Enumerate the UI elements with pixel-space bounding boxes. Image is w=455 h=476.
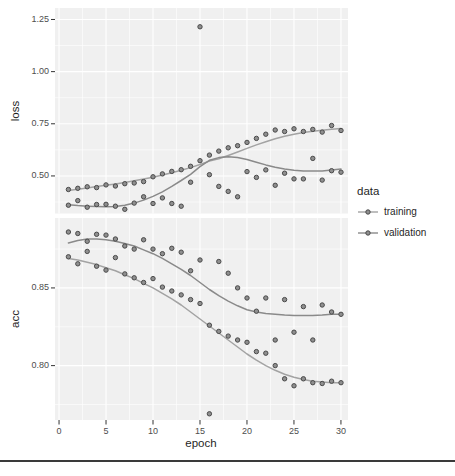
point-training-loss — [311, 127, 315, 131]
point-validation-acc — [94, 232, 98, 236]
point-training-loss — [254, 136, 258, 140]
point-validation-loss — [85, 205, 89, 209]
point-training-loss — [104, 183, 108, 187]
x-tick-label: 25 — [282, 427, 306, 436]
point-validation-acc — [188, 269, 192, 273]
y-tick-label-loss: 1.25 — [19, 15, 49, 24]
point-training-loss — [188, 164, 192, 168]
point-validation-acc — [217, 259, 221, 263]
point-training-acc — [76, 262, 80, 266]
point-validation-acc — [160, 252, 164, 256]
point-validation-loss — [160, 196, 164, 200]
point-validation-acc — [170, 246, 174, 250]
point-training-acc — [273, 363, 277, 367]
point-validation-acc — [264, 296, 268, 300]
point-validation-loss — [292, 177, 296, 181]
y-tick-label-loss: 1.00 — [19, 67, 49, 76]
point-training-acc — [292, 384, 296, 388]
x-tick-label: 30 — [329, 427, 353, 436]
point-training-loss — [141, 179, 145, 183]
point-training-loss — [282, 129, 286, 133]
legend-item-training: training — [357, 202, 426, 223]
panel-acc-bg — [55, 218, 348, 420]
point-validation-loss — [179, 204, 183, 208]
point-training-loss — [339, 128, 343, 132]
point-validation-loss — [264, 168, 268, 172]
point-validation-acc — [273, 338, 277, 342]
y-tick-label-loss: 0.50 — [19, 171, 49, 180]
point-validation-acc — [235, 286, 239, 290]
point-training-acc — [235, 338, 239, 342]
point-validation-loss — [141, 195, 145, 199]
point-training-acc — [198, 301, 202, 305]
point-training-acc — [217, 329, 221, 333]
point-validation-acc — [226, 271, 230, 275]
point-training-loss — [235, 144, 239, 148]
x-tick-label: 0 — [47, 427, 71, 436]
point-training-acc — [94, 264, 98, 268]
x-tick-label: 5 — [94, 427, 118, 436]
point-validation-acc — [132, 247, 136, 251]
point-validation-loss — [217, 184, 221, 188]
point-validation-loss — [282, 171, 286, 175]
point-validation-loss — [113, 204, 117, 208]
y-axis-title-acc: acc — [10, 310, 22, 328]
point-training-acc — [188, 297, 192, 301]
point-training-acc — [320, 381, 324, 385]
point-training-acc — [132, 276, 136, 280]
point-validation-acc — [113, 237, 117, 241]
point-training-loss — [273, 128, 277, 132]
legend-item-validation: validation — [357, 223, 426, 244]
point-validation-acc — [151, 247, 155, 251]
legend-items: trainingvalidation — [357, 202, 426, 244]
point-training-loss — [179, 168, 183, 172]
x-tick-label: 15 — [188, 427, 212, 436]
point-training-acc — [113, 255, 117, 259]
point-validation-loss — [329, 169, 333, 173]
point-training-loss — [76, 186, 80, 190]
point-validation-loss — [254, 175, 258, 179]
point-training-acc — [85, 249, 89, 253]
point-validation-acc — [329, 310, 333, 314]
point-training-acc — [339, 381, 343, 385]
point-training-loss — [320, 130, 324, 134]
point-validation-loss — [132, 201, 136, 205]
point-validation-loss — [320, 178, 324, 182]
point-validation-loss — [207, 173, 211, 177]
legend-item-label: training — [384, 207, 417, 217]
point-validation-loss — [94, 202, 98, 206]
point-validation-acc — [66, 230, 70, 234]
point-validation-loss — [151, 201, 155, 205]
point-training-loss — [151, 175, 155, 179]
x-axis-title: epoch — [185, 438, 216, 450]
point-validation-acc — [179, 250, 183, 254]
point-training-loss — [264, 132, 268, 136]
point-training-loss — [94, 185, 98, 189]
point-validation-acc — [104, 233, 108, 237]
point-training-loss — [329, 123, 333, 127]
y-tick-label-loss: 0.75 — [19, 119, 49, 128]
point-validation-acc — [85, 239, 89, 243]
point-validation-acc — [245, 296, 249, 300]
point-training-acc — [329, 379, 333, 383]
bottom-border-line — [0, 460, 455, 462]
point-validation-acc — [254, 309, 258, 313]
point-training-loss — [170, 169, 174, 173]
point-training-acc — [207, 323, 211, 327]
point-validation-acc — [311, 338, 315, 342]
point-training-acc — [301, 377, 305, 381]
point-validation-acc — [141, 238, 145, 242]
point-training-acc — [264, 351, 268, 355]
point-validation-loss — [123, 207, 127, 211]
point-training-acc — [282, 377, 286, 381]
point-training-loss — [66, 187, 70, 191]
point-training-acc — [141, 280, 145, 284]
panel-loss-bg — [55, 8, 348, 214]
point-training-acc — [160, 285, 164, 289]
point-validation-acc — [198, 258, 202, 262]
point-training-loss — [217, 149, 221, 153]
point-validation-loss — [66, 203, 70, 207]
point-training-acc — [226, 334, 230, 338]
point-validation-loss — [301, 177, 305, 181]
point-training-loss — [301, 129, 305, 133]
